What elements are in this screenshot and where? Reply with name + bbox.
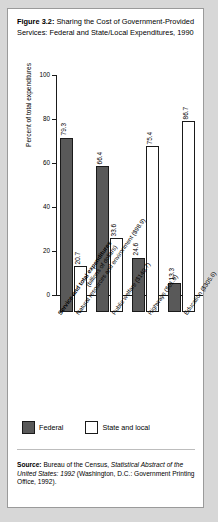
bar-value-label: 33.6 (110, 224, 116, 236)
bar-state-and-local: 75.4 (146, 146, 159, 312)
source-divider (17, 449, 195, 450)
y-axis-tick-label: 20 (8, 247, 50, 254)
source-text-1: Bureau of the Census, (42, 461, 111, 468)
y-axis-tick-label: 60 (8, 159, 50, 166)
bar-value-label: 75.4 (146, 132, 152, 144)
bar-value-label: 20.7 (74, 252, 80, 264)
x-axis-category-labels: Service and total expenditures (billions… (8, 312, 205, 412)
y-axis-tick-label: 40 (8, 203, 50, 210)
bar-value-label: 79.3 (60, 123, 66, 135)
figure-title: Figure 3.2: Sharing the Cost of Governme… (17, 17, 197, 38)
chart-legend: Federal State and local (22, 421, 150, 434)
legend-label-state-and-local: State and local (102, 423, 150, 432)
bar-value-label: 86.7 (182, 107, 188, 119)
source-label: Source: (17, 461, 42, 468)
y-axis-tick-label: 80 (8, 115, 50, 122)
y-axis-tick (52, 163, 57, 164)
y-axis-tick (52, 75, 57, 76)
legend-swatch-state-and-local (85, 421, 98, 434)
y-axis-tick-label: 100 (8, 71, 50, 78)
y-axis-tick (52, 119, 57, 120)
y-axis-line (56, 75, 57, 295)
y-axis-tick (52, 207, 57, 208)
y-axis-tick (52, 251, 57, 252)
figure-panel: Figure 3.2: Sharing the Cost of Governme… (7, 8, 204, 508)
bar-state-and-local: 86.7 (182, 121, 195, 312)
source-note: Source: Bureau of the Census, Statistica… (17, 461, 197, 487)
bar-federal: 79.3 (60, 138, 73, 312)
legend-swatch-federal (22, 421, 35, 434)
bar-value-label: 24.6 (132, 243, 138, 255)
y-axis-tick (52, 295, 57, 296)
y-axis-tick-label: 0 (8, 291, 50, 298)
figure-title-label: Figure 3.2: (17, 17, 54, 26)
legend-label-federal: Federal (39, 423, 63, 432)
bar-value-label: 66.4 (96, 151, 102, 163)
legend-item-state-and-local: State and local (85, 421, 150, 434)
legend-item-federal: Federal (22, 421, 63, 434)
